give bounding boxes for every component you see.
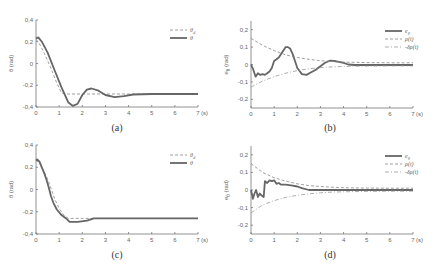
series-δρt <box>251 66 413 87</box>
series-ρt <box>251 164 413 189</box>
chart-panel-a: 01234567(s)0,40,20-0,2-0,4θ (rad)θdθ(a) <box>8 17 208 134</box>
y-tick-label: -0,2 <box>23 82 34 88</box>
x-tick-label: 1 <box>272 111 276 117</box>
legend-label: θ <box>190 35 193 41</box>
x-tick-label: 4 <box>127 110 131 116</box>
x-tick-label: 4 <box>127 237 131 243</box>
legend-label: eθ <box>405 28 411 36</box>
y-tick-label: 0,1 <box>240 44 249 50</box>
x-axis-unit: (s) <box>416 111 423 117</box>
x-tick-label: 0 <box>34 237 38 243</box>
y-axis-label: θ (rad) <box>8 55 14 73</box>
legend-label: ρ(t) <box>404 36 414 43</box>
y-axis-label: eθ (rad) <box>223 54 231 74</box>
x-tick-label: 3 <box>319 111 323 117</box>
x-tick-label: 0 <box>249 237 253 243</box>
y-tick-label: 0,2 <box>25 39 34 45</box>
series-eθ <box>251 180 413 199</box>
y-tick-label: 0,2 <box>25 164 34 170</box>
x-tick-label: 3 <box>319 237 323 243</box>
x-tick-label: 4 <box>342 237 346 243</box>
x-tick-label: 2 <box>296 111 300 117</box>
x-tick-label: 1 <box>272 237 276 243</box>
x-axis-unit: (s) <box>201 237 208 243</box>
x-tick-label: 3 <box>104 237 108 243</box>
y-axis-label: eθ (rad) <box>223 180 231 200</box>
y-tick-label: 0 <box>245 62 249 68</box>
y-tick-label: 0 <box>245 187 249 193</box>
x-tick-label: 5 <box>150 237 154 243</box>
chart-panel-c: 01234567(s)0,40,20-0,2-0,4θ (rad)θdθ(c) <box>8 142 208 261</box>
panel-caption: (d) <box>324 249 336 261</box>
x-axis-unit: (s) <box>416 237 423 243</box>
legend-label: θd <box>190 152 196 160</box>
legend-label: ρ(t) <box>404 161 414 168</box>
x-axis-unit: (s) <box>201 110 208 116</box>
x-tick-label: 4 <box>342 111 346 117</box>
x-tick-label: 1 <box>57 110 61 116</box>
series-θ <box>36 37 198 106</box>
panel-caption: (a) <box>111 122 122 134</box>
y-axis-label: θ (rad) <box>8 181 14 199</box>
chart-panel-b: 01234567(s)0,20,10-0,1-0,2eθ (rad)eθρ(t)… <box>223 21 423 134</box>
y-tick-label: -0,2 <box>23 209 34 215</box>
y-tick-label: -0,1 <box>238 205 249 211</box>
chart-panel-d: 01234567(s)0,20,10-0,1-0,2eθ (rad)eθρ(t)… <box>223 146 423 261</box>
x-tick-label: 5 <box>365 237 369 243</box>
y-tick-label: -0,1 <box>238 79 249 85</box>
y-tick-label: -0,4 <box>23 104 34 110</box>
x-tick-label: 2 <box>81 237 85 243</box>
x-tick-label: 2 <box>81 110 85 116</box>
x-tick-label: 2 <box>296 237 300 243</box>
y-tick-label: 0,4 <box>25 142 34 148</box>
x-tick-label: 5 <box>365 111 369 117</box>
x-tick-label: 6 <box>173 237 177 243</box>
x-tick-label: 1 <box>57 237 61 243</box>
y-tick-label: 0 <box>30 187 34 193</box>
x-tick-label: 6 <box>173 110 177 116</box>
x-tick-label: 5 <box>150 110 154 116</box>
series-δρt <box>251 191 413 213</box>
x-tick-label: 0 <box>249 111 253 117</box>
panel-caption: (c) <box>111 249 122 261</box>
x-tick-label: 7 <box>196 237 200 243</box>
x-tick-label: 7 <box>411 237 415 243</box>
y-tick-label: 0,4 <box>25 17 34 23</box>
series-θ <box>36 160 198 222</box>
y-tick-label: -0,2 <box>238 222 249 228</box>
series-θd <box>36 161 198 219</box>
y-tick-label: 0,2 <box>240 152 249 158</box>
x-tick-label: 0 <box>34 110 38 116</box>
y-tick-label: 0,2 <box>240 27 249 33</box>
x-tick-label: 3 <box>104 110 108 116</box>
legend-label: θ <box>190 160 193 166</box>
x-tick-label: 7 <box>411 111 415 117</box>
legend-label: -δρ(t) <box>405 169 418 176</box>
legend-label: θd <box>190 27 196 35</box>
figure: 01234567(s)0,40,20-0,2-0,4θ (rad)θdθ(a)0… <box>0 0 437 271</box>
x-tick-label: 7 <box>196 110 200 116</box>
legend-label: eθ <box>405 153 411 161</box>
panel-caption: (b) <box>324 122 336 134</box>
legend-label: -δρ(t) <box>405 44 418 51</box>
y-tick-label: -0,4 <box>23 231 34 237</box>
y-tick-label: 0,1 <box>240 169 249 175</box>
x-tick-label: 6 <box>388 111 392 117</box>
y-tick-label: 0 <box>30 61 34 67</box>
y-tick-label: -0,2 <box>238 96 249 102</box>
x-tick-label: 6 <box>388 237 392 243</box>
